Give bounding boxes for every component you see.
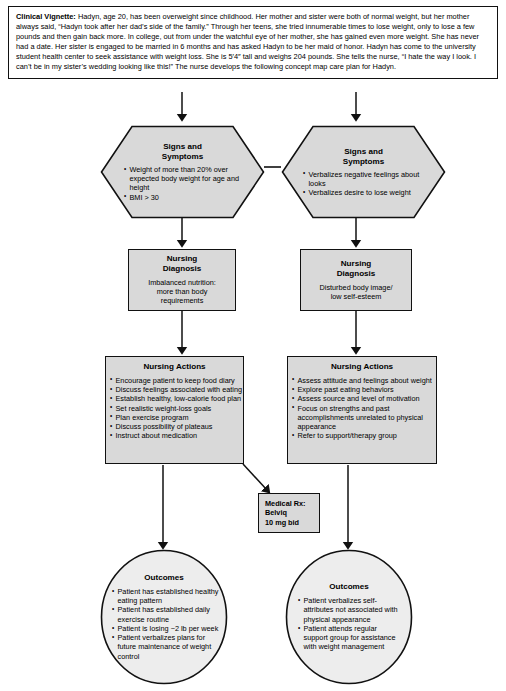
signs-left-list: Weight of more than 20% over expected bo… — [122, 165, 243, 202]
nursing-diagnosis-right: Nursing Diagnosis Disturbed body image/ … — [300, 249, 412, 311]
list-item: Patient is losing ~2 lb per week — [112, 624, 219, 633]
diagnosis-right-header-line2: Diagnosis — [337, 269, 376, 278]
actions-left-list: Encourage patient to keep food diary Dis… — [106, 376, 243, 441]
list-item: Explore past eating behaviors — [292, 385, 436, 394]
diagnosis-right-body-line2: low self-esteem — [331, 292, 382, 301]
connector-lines — [0, 0, 506, 691]
diagnosis-right-header: Nursing Diagnosis — [301, 259, 411, 279]
diagnosis-left-header: Nursing Diagnosis — [129, 254, 235, 274]
list-item: Refer to support/therapy group — [292, 431, 436, 440]
outcomes-right-header: Outcomes — [295, 582, 403, 592]
list-item: BMI > 30 — [124, 193, 243, 202]
list-item: Verbalizes desire to lose weight — [303, 188, 426, 197]
diagnosis-right-body: Disturbed body image/ low self-esteem — [301, 283, 411, 301]
signs-right-list: Verbalizes negative feelings about looks… — [301, 170, 426, 198]
list-item: Assess source and level of motivation — [292, 394, 436, 403]
list-item: Focus on strengths and past accomplishme… — [292, 404, 436, 432]
actions-left-header: Nursing Actions — [106, 362, 243, 372]
signs-right-header: Signs and Symptoms — [301, 147, 426, 167]
list-item: Establish healthy, low-calorie food plan — [110, 394, 243, 403]
concept-map-canvas: Clinical Vignette: Hadyn, age 20, has be… — [0, 0, 506, 691]
actions-right-header: Nursing Actions — [288, 362, 436, 372]
diagnosis-left-body-line2: more than body — [157, 287, 208, 296]
list-item: Assess attitude and feelings about weigh… — [292, 376, 436, 385]
list-item: Patient verbalizes plans for future main… — [112, 633, 219, 661]
signs-left-header-line1: Signs and — [163, 142, 202, 151]
diagnosis-left-body-line3: requirements — [161, 296, 204, 305]
list-item: Patient has established daily exercise r… — [112, 605, 219, 623]
list-item: Encourage patient to keep food diary — [110, 376, 243, 385]
nursing-actions-left: Nursing Actions Encourage patient to kee… — [105, 356, 244, 464]
medical-rx-box: Medical Rx: Belviq 10 mg bid — [258, 493, 320, 533]
signs-left-header: Signs and Symptoms — [122, 142, 243, 162]
signs-and-symptoms-right: Signs and Symptoms Verbalizes negative f… — [281, 125, 446, 219]
list-item: Instruct about medication — [110, 431, 243, 440]
outcomes-left-header: Outcomes — [109, 573, 219, 583]
medical-rx-line2: Belviq — [265, 508, 287, 517]
signs-right-header-line1: Signs and — [344, 147, 383, 156]
outcomes-left: Outcomes Patient has established healthy… — [100, 549, 228, 685]
list-item: Weight of more than 20% over expected bo… — [124, 165, 243, 193]
nursing-diagnosis-left: Nursing Diagnosis Imbalanced nutrition: … — [128, 249, 236, 311]
diagnosis-left-body-line1: Imbalanced nutrition: — [148, 278, 216, 287]
list-item: Discuss possibility of plateaus — [110, 422, 243, 431]
medical-rx-text: Medical Rx: Belviq 10 mg bid — [263, 499, 319, 527]
list-item: Verbalizes negative feelings about looks — [303, 170, 426, 188]
diagnosis-left-header-line2: Diagnosis — [163, 264, 202, 273]
list-item: Patient attends regular support group fo… — [298, 624, 403, 652]
outcomes-right-list: Patient verbalizes self-attributes not a… — [295, 596, 403, 651]
diagnosis-left-body: Imbalanced nutrition: more than body req… — [129, 278, 235, 306]
actions-right-list: Assess attitude and feelings about weigh… — [288, 376, 436, 441]
outcomes-left-list: Patient has established healthy eating p… — [109, 587, 219, 661]
medical-rx-line3: 10 mg bid — [265, 518, 299, 527]
signs-left-header-line2: Symptoms — [162, 152, 203, 161]
list-item: Set realistic weight-loss goals — [110, 404, 243, 413]
nursing-actions-right: Nursing Actions Assess attitude and feel… — [287, 356, 437, 464]
list-item: Discuss feelings associated with eating — [110, 385, 243, 394]
list-item: Patient verbalizes self-attributes not a… — [298, 596, 403, 624]
signs-right-header-line2: Symptoms — [343, 157, 384, 166]
signs-and-symptoms-left: Signs and Symptoms Weight of more than 2… — [100, 125, 265, 219]
diagnosis-right-body-line1: Disturbed body image/ — [319, 283, 392, 292]
diagnosis-right-header-line1: Nursing — [341, 259, 372, 268]
list-item: Plan exercise program — [110, 413, 243, 422]
outcomes-right: Outcomes Patient verbalizes self-attribu… — [285, 549, 413, 685]
diagnosis-left-header-line1: Nursing — [167, 254, 198, 263]
list-item: Patient has established healthy eating p… — [112, 587, 219, 605]
medical-rx-line1: Medical Rx: — [265, 499, 306, 508]
